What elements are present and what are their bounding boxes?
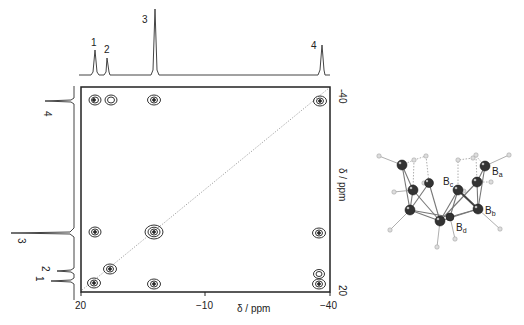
diagonal-line bbox=[82, 88, 329, 290]
cross-peak-1-1 bbox=[88, 278, 101, 288]
y-axis-label: δ / ppm bbox=[337, 168, 348, 201]
borane-cluster-structure: Ba Bc Bb Bd bbox=[377, 153, 511, 249]
left-peak-label-4: 4 bbox=[42, 111, 53, 117]
y-axis: -40 δ / ppm 20 bbox=[337, 89, 348, 297]
left-peak-label-2: 2 bbox=[40, 266, 51, 272]
cross-peak-4-3 bbox=[313, 228, 326, 238]
cross-peak-1-4 bbox=[89, 95, 101, 105]
atom-label-ba: Ba bbox=[492, 166, 503, 178]
y-tick-minus40: -40 bbox=[337, 89, 348, 104]
cross-peak-4-1 bbox=[313, 279, 326, 289]
top-peak-label-2: 2 bbox=[104, 44, 110, 55]
top-peak-label-4: 4 bbox=[311, 40, 317, 51]
x-axis: 20 −10 −40 δ / ppm bbox=[75, 292, 337, 314]
left-peak-label-3: 3 bbox=[16, 238, 27, 244]
top-peak-label-1: 1 bbox=[91, 37, 97, 48]
top-peak-label-3: 3 bbox=[142, 14, 148, 25]
atom-label-bd: Bd bbox=[456, 222, 467, 234]
cross-peak-3-1 bbox=[148, 279, 161, 289]
cross-peaks bbox=[88, 95, 327, 289]
cross-peak-2-2 bbox=[104, 264, 117, 274]
cross-peak-3-3 bbox=[145, 225, 163, 239]
y-tick-20: 20 bbox=[337, 285, 348, 297]
nmr-figure: 1 2 3 4 4 3 2 1 bbox=[0, 0, 524, 325]
x-tick-minus40: −40 bbox=[320, 300, 337, 311]
top-projection-spectrum: 1 2 3 4 bbox=[79, 9, 330, 75]
cross-peak-3-4 bbox=[148, 95, 161, 105]
atom-label-bb: Bb bbox=[485, 205, 496, 217]
x-tick-20: 20 bbox=[75, 300, 87, 311]
x-axis-label: δ / ppm bbox=[237, 303, 270, 314]
left-peak-label-1: 1 bbox=[34, 276, 45, 282]
cross-peak-2-4 bbox=[105, 95, 117, 105]
cross-peak-4-2 bbox=[314, 270, 325, 279]
left-projection-spectrum: 4 3 2 1 bbox=[11, 86, 74, 300]
x-tick-minus10: −10 bbox=[196, 300, 213, 311]
cross-peak-4-4 bbox=[314, 96, 327, 106]
contour-plot-area bbox=[81, 87, 330, 292]
atom-label-bc: Bc bbox=[443, 176, 454, 188]
cross-peak-1-3 bbox=[89, 227, 101, 237]
